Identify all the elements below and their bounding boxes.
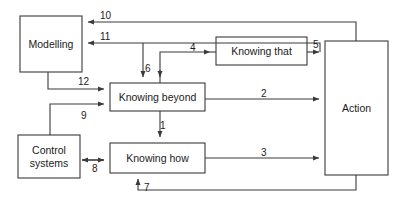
edge-label-8: 8 [92, 163, 98, 174]
node-box-action [325, 41, 388, 175]
edge-label-11: 11 [100, 31, 110, 42]
edge-label-4: 4 [190, 42, 196, 53]
edge-path-12 [48, 72, 104, 89]
node-box-control-systems [18, 135, 80, 178]
edge-label-10: 10 [100, 10, 111, 21]
edge-label-1: 1 [160, 120, 166, 131]
edge-path-7 [138, 175, 356, 190]
edge-path-9 [50, 104, 104, 135]
edge-label-6: 6 [145, 63, 151, 74]
edge-label-2: 2 [261, 88, 267, 99]
edge-label-3: 3 [261, 147, 267, 158]
edge-label-5: 5 [313, 39, 319, 50]
edge-label-12: 12 [78, 76, 89, 87]
node-box-knowing-how [110, 143, 205, 173]
edge-label-7: 7 [144, 182, 150, 193]
edge-label-9: 9 [81, 110, 87, 121]
edge-path-4 [160, 52, 210, 77]
diagram-canvas: Modelling Knowing beyond Knowing that Kn… [0, 0, 406, 201]
node-box-knowing-that [216, 37, 307, 65]
node-box-knowing-beyond [110, 83, 205, 111]
node-box-modelling [20, 16, 82, 72]
diagram-vector-layer [0, 0, 406, 201]
